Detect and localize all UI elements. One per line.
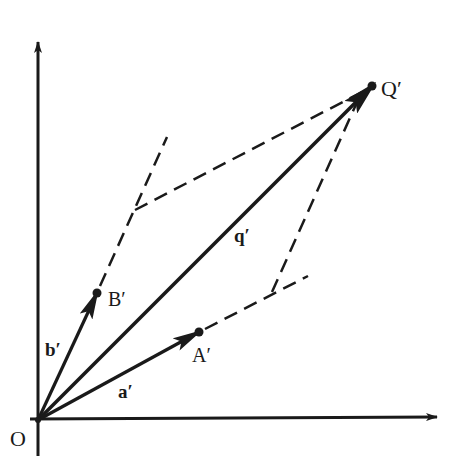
lower-parallel-dashed-line [272,100,358,292]
vector-b-label: b′ [45,339,61,360]
vector-a-arrow [38,332,199,420]
point-b-dot [93,289,102,298]
a-extension-dashed-line [205,276,308,329]
point-a-dot [195,328,204,337]
point-a-label: A′ [192,344,211,366]
b-extension-dashed-line [100,137,167,286]
upper-parallel-dashed-line [135,92,362,210]
vector-diagram: O A′ B′ Q′ a′ b′ q′ [0,0,458,470]
vector-q-arrow [38,86,372,420]
origin-label: O [10,426,26,451]
point-q-dot [368,82,377,91]
point-q-label: Q′ [381,76,402,101]
x-axis [30,417,437,419]
origin-dot [35,417,41,423]
labels: O A′ B′ Q′ a′ b′ q′ [10,76,402,451]
construction-lines [100,92,362,329]
vectors [38,86,372,420]
point-b-label: B′ [108,288,126,310]
axes [30,42,437,456]
vector-a-label: a′ [118,381,133,402]
vector-q-label: q′ [234,225,250,246]
